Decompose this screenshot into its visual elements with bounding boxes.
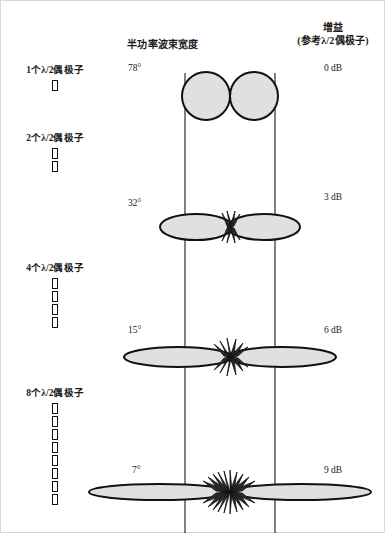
array-label-1-element: 1个λ/2偶极子: [0, 62, 110, 76]
lobe-left: [182, 72, 230, 120]
sidelobe-cluster: [203, 470, 255, 514]
beamwidth-value-4-element: 15°: [128, 325, 141, 335]
column-header-gain: 增益 (参考λ/2偶极子): [282, 21, 384, 47]
dipole-element-icon: [52, 468, 58, 479]
pattern-4-element: [124, 338, 336, 376]
dipole-element-icon: [52, 429, 58, 440]
dipole-element-icon: [52, 455, 58, 466]
sidelobe-cluster: [214, 338, 248, 376]
dipole-element-icon: [52, 80, 58, 91]
column-header-beamwidth: 半功率波束宽度: [108, 38, 218, 51]
pattern-1-element: [182, 72, 278, 120]
beamwidth-value-8-element: 7°: [132, 465, 141, 475]
dipole-element-icon: [52, 494, 58, 505]
beamwidth-value-1-element: 78°: [128, 63, 141, 73]
dipole-element-icon: [52, 416, 58, 427]
beamwidth-value-2-element: 32°: [128, 198, 141, 208]
dipole-stack-1-element: [52, 80, 58, 91]
gain-value-1-element: 0 dB: [298, 63, 368, 73]
lobe-left: [160, 214, 232, 240]
array-label-2-element: 2个λ/2偶极子: [0, 130, 110, 144]
lobe-left: [124, 347, 232, 367]
dipole-stack-8-element: [52, 403, 58, 505]
array-label-8-element: 8个λ/2偶极子: [0, 385, 110, 399]
dipole-element-icon: [52, 317, 58, 328]
dipole-element-icon: [52, 148, 58, 159]
gain-value-4-element: 6 dB: [298, 325, 368, 335]
column-header-gain-line2: (参考λ/2偶极子): [282, 34, 384, 47]
lobe-right: [228, 214, 300, 240]
gain-value-2-element: 3 dB: [298, 192, 368, 202]
dipole-element-icon: [52, 161, 58, 172]
dipole-element-icon: [52, 304, 58, 315]
column-header-gain-line1: 增益: [282, 21, 384, 34]
antenna-pattern-diagram: 半功率波束宽度 增益 (参考λ/2偶极子) 1个λ/2偶极子 78° 0 dB …: [0, 0, 385, 533]
dipole-element-icon: [52, 278, 58, 289]
lobe-right: [230, 72, 278, 120]
pattern-2-element: [160, 211, 300, 243]
dipole-element-icon: [52, 442, 58, 453]
dipole-element-icon: [52, 291, 58, 302]
sidelobe-cluster: [222, 211, 240, 243]
dipole-stack-2-element: [52, 148, 58, 172]
pattern-8-element: [89, 470, 371, 514]
dipole-stack-4-element: [52, 278, 58, 328]
array-label-4-element: 4个λ/2偶极子: [0, 260, 110, 274]
lobe-right: [228, 347, 336, 367]
dipole-element-icon: [52, 403, 58, 414]
dipole-element-icon: [52, 481, 58, 492]
lobe-right: [231, 484, 371, 500]
lobe-left: [89, 484, 229, 500]
gain-value-8-element: 9 dB: [298, 465, 368, 475]
